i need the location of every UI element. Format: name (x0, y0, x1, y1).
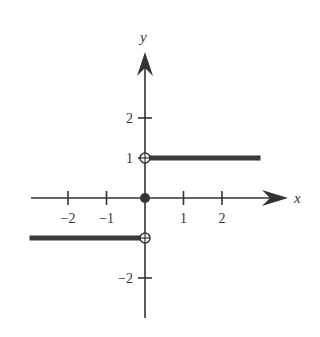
filled-point-origin (140, 193, 150, 203)
x-tick-label: −1 (99, 211, 114, 226)
x-tick-label: 1 (180, 211, 187, 226)
y-tick-label: −2 (118, 271, 133, 286)
x-axis-label: x (293, 190, 301, 206)
open-circle-upper (140, 153, 150, 163)
open-circle-lower (140, 233, 150, 243)
step-function-chart: xy−2−11221−2 (0, 0, 320, 337)
x-tick-label: −2 (61, 211, 76, 226)
x-tick-label: 2 (219, 211, 226, 226)
axes (31, 52, 288, 318)
y-axis-label: y (138, 29, 147, 45)
y-tick-label: 2 (126, 111, 133, 126)
y-tick-label: 1 (126, 151, 133, 166)
